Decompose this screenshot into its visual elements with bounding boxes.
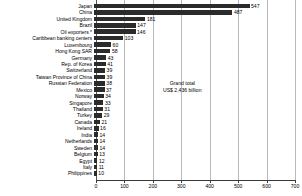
tick-label-300: 300 bbox=[177, 183, 186, 189]
bar bbox=[94, 36, 123, 41]
bar bbox=[94, 126, 99, 131]
bar bbox=[94, 29, 136, 34]
bar bbox=[94, 94, 104, 99]
tick-label-200: 200 bbox=[149, 183, 158, 189]
bar-category-label: Philippines bbox=[0, 170, 94, 176]
bar bbox=[94, 4, 250, 9]
bar bbox=[94, 81, 105, 86]
grand-total-annotation: Grand total US$ 2,436 billion bbox=[163, 80, 202, 93]
bar-value-label: 10 bbox=[98, 170, 104, 176]
bar bbox=[94, 158, 97, 163]
grand-total-line2: US$ 2,436 billion bbox=[163, 87, 202, 94]
tick-label-600: 600 bbox=[262, 183, 271, 189]
tick-label-0: 0 bbox=[95, 183, 98, 189]
grand-total-line1: Grand total bbox=[163, 80, 202, 87]
bar bbox=[94, 113, 102, 118]
bar bbox=[94, 75, 105, 80]
bar bbox=[94, 145, 98, 150]
x-axis-ticks: 0100200300400500600700 bbox=[96, 180, 295, 194]
bar bbox=[94, 68, 105, 73]
tick-label-700: 700 bbox=[291, 183, 300, 189]
bar-row: Philippines10 bbox=[0, 170, 302, 176]
tick-label-500: 500 bbox=[234, 183, 243, 189]
bar-rows: Japan547China487United Kingdom181Brazil1… bbox=[0, 3, 302, 177]
bar bbox=[94, 42, 111, 47]
tick-label-100: 100 bbox=[120, 183, 129, 189]
bar bbox=[94, 165, 97, 170]
bar bbox=[94, 152, 98, 157]
bar bbox=[94, 171, 97, 176]
bar bbox=[94, 120, 100, 125]
bar bbox=[94, 139, 98, 144]
bar-track: 10 bbox=[94, 170, 302, 176]
bar bbox=[94, 107, 103, 112]
bar bbox=[94, 100, 103, 105]
bar bbox=[94, 132, 98, 137]
bar bbox=[94, 10, 232, 15]
bar bbox=[94, 62, 106, 67]
bar bbox=[94, 17, 145, 22]
tick-label-400: 400 bbox=[205, 183, 214, 189]
bar bbox=[94, 55, 106, 60]
bar bbox=[94, 49, 110, 54]
bar bbox=[94, 23, 136, 28]
bar-chart: Japan547China487United Kingdom181Brazil1… bbox=[0, 0, 302, 196]
bar bbox=[94, 87, 105, 92]
